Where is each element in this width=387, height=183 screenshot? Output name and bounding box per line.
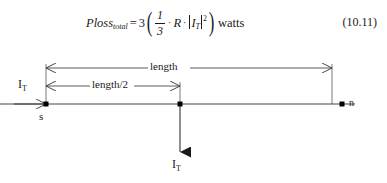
length-label: length bbox=[150, 60, 178, 72]
figure-page: Plosstotal = 3 ( 1 3 · R · IT2 ) watts (… bbox=[0, 0, 387, 183]
transmission-line-diagram: length length/2 IT IT s n bbox=[0, 0, 387, 183]
injected-current-subscript: T bbox=[22, 84, 27, 93]
midpoint-node bbox=[178, 102, 183, 107]
injected-current-label: IT bbox=[18, 77, 27, 92]
end-node-n bbox=[340, 102, 345, 107]
tapped-current-subscript: T bbox=[176, 164, 181, 173]
tapped-current-label: IT bbox=[172, 157, 181, 172]
source-node-s bbox=[44, 102, 49, 107]
end-node-label: n bbox=[349, 97, 354, 108]
source-node-label: s bbox=[39, 110, 43, 122]
half-length-label: length/2 bbox=[92, 78, 128, 90]
